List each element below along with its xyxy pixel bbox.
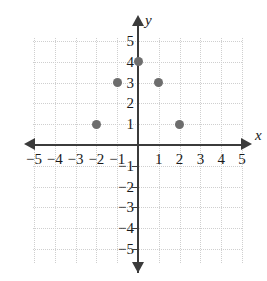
x-axis-right-arrow-icon	[241, 138, 252, 150]
y-tick-label: 1	[114, 117, 134, 132]
y-axis-down-arrow-icon	[132, 262, 144, 273]
x-tick-label: −3	[65, 152, 87, 167]
y-tick-label: −1	[114, 159, 134, 174]
coordinate-plane-figure: x y −5−4−3−2−11234554321−1−2−3−4−5	[0, 0, 267, 281]
y-tick-mark	[132, 166, 138, 167]
data-point	[92, 120, 101, 129]
y-axis-label: y	[145, 13, 152, 28]
y-tick-label: 2	[114, 96, 134, 111]
y-tick-mark	[132, 249, 138, 250]
x-tick-label: 1	[148, 152, 170, 167]
x-tick-label: −2	[85, 152, 107, 167]
y-tick-label: 4	[114, 55, 134, 70]
x-tick-label: 4	[210, 152, 232, 167]
x-axis-label: x	[255, 128, 262, 143]
y-tick-label: −2	[114, 180, 134, 195]
x-tick-label: −4	[44, 152, 66, 167]
x-tick-label: −5	[23, 152, 45, 167]
y-tick-mark	[132, 207, 138, 208]
y-tick-mark	[132, 228, 138, 229]
y-tick-label: −4	[114, 221, 134, 236]
x-tick-label: 2	[169, 152, 191, 167]
x-axis-left-arrow-icon	[24, 138, 35, 150]
y-tick-mark	[132, 187, 138, 188]
x-tick-label: 5	[231, 152, 253, 167]
data-point	[134, 57, 143, 66]
data-point	[175, 120, 184, 129]
y-axis-up-arrow-icon	[132, 15, 144, 26]
y-tick-label: −5	[114, 242, 134, 257]
y-tick-label: −3	[114, 200, 134, 215]
y-tick-label: 5	[114, 34, 134, 49]
data-point	[113, 78, 122, 87]
x-tick-label: 3	[189, 152, 211, 167]
